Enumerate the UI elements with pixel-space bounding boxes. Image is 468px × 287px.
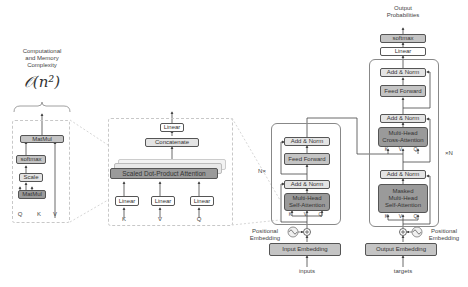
input-embedding-block: Input Embedding (269, 243, 341, 256)
masked-q: Q (413, 213, 418, 220)
encoder-positional-label: Positional Embedding (245, 228, 285, 242)
label-line: Probabilities (378, 12, 428, 19)
caption-line: and Memory (14, 55, 70, 62)
input-k-label: K (121, 216, 127, 223)
encoder-repeat-label: N× (255, 168, 269, 175)
encoder-q: Q (318, 211, 323, 218)
scaled-dot-product-attention-block: Scaled Dot-Product Attention (110, 168, 218, 179)
encoder-v: V (303, 211, 308, 218)
output-probabilities-label: Output Probabilities (378, 5, 428, 19)
encoder-add-norm-top: Add & Norm (284, 137, 330, 146)
cross-v: V (398, 146, 403, 153)
attention-line: Self-Attention (289, 202, 325, 209)
masked-v: V (398, 213, 403, 220)
label-line: Output (378, 5, 428, 12)
encoder-self-attention-block: Multi-Head Self-Attention (284, 193, 330, 211)
label-line: Positional (424, 228, 464, 235)
decoder-cross-attention-block: Multi-Head Cross-Attention (378, 127, 428, 147)
linear-top-block: Linear (160, 123, 184, 132)
caption-line: Complexity (14, 62, 70, 69)
caption-line: Computational (14, 48, 70, 55)
decoder-positional-label: Positional Embedding (424, 228, 464, 242)
scale-block: Scale (19, 173, 43, 182)
linear-q-block: Linear (190, 196, 214, 206)
matmul-top-block: MatMul (20, 135, 64, 143)
matmul-bottom-block: MatMul (18, 190, 46, 199)
complexity-formula: 𝒪(n²) (10, 74, 74, 91)
complexity-caption: Computational and Memory Complexity (14, 48, 70, 69)
input-q-label: Q (196, 216, 202, 223)
label-line: Positional (245, 228, 285, 235)
attention-line: Cross-Attention (382, 137, 423, 144)
label-line: Embedding (245, 235, 285, 242)
attention-line: Multi-Head (388, 195, 417, 202)
input-v-label: V (157, 216, 163, 223)
attention-line: Self-Attention (385, 202, 421, 209)
input-q-label: Q (17, 211, 23, 218)
inputs-label: inputs (287, 268, 327, 275)
linear-k-block: Linear (115, 196, 139, 206)
softmax-block: softmax (16, 155, 46, 164)
input-k-label: K (36, 211, 42, 218)
cross-k: K (384, 146, 389, 153)
cross-q: Q (413, 146, 418, 153)
decoder-add-norm-top: Add & Norm (380, 68, 426, 77)
encoder-k: K (288, 211, 293, 218)
decoder-masked-attention-block: Masked Multi-Head Self-Attention (378, 184, 428, 213)
attention-line: Multi-Head (388, 130, 417, 137)
output-embedding-block: Output Embedding (365, 243, 437, 256)
decoder-add-norm-bottom: Add & Norm (380, 170, 426, 179)
targets-label: targets (383, 268, 423, 275)
decoder-softmax-block: softmax (380, 34, 426, 43)
attention-line: Masked (392, 188, 413, 195)
attention-line: Multi-Head (292, 195, 321, 202)
decoder-linear-block: Linear (380, 47, 426, 56)
input-v-label: V (52, 211, 58, 218)
linear-v-block: Linear (151, 196, 175, 206)
encoder-add-norm-bottom: Add & Norm (284, 180, 330, 189)
label-line: Embedding (424, 235, 464, 242)
masked-k: K (384, 213, 389, 220)
decoder-add-norm-mid: Add & Norm (380, 114, 426, 123)
decoder-feed-forward: Feed Forward (380, 85, 426, 97)
encoder-feed-forward: Feed Forward (284, 153, 330, 165)
decoder-repeat-label: ×N (442, 150, 456, 157)
concatenate-block: Concatenate (145, 138, 199, 147)
